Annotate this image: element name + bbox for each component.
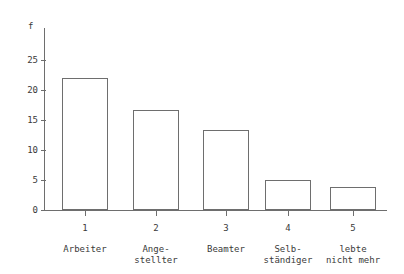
y-tick-label-text: 10: [12, 146, 38, 155]
x-category-number: 4: [258, 224, 318, 233]
y-tick-mark: [41, 90, 46, 91]
y-tick-mark: [41, 120, 46, 121]
x-category-label: Arbeiter: [45, 244, 125, 255]
x-category-number: 2: [126, 224, 186, 233]
y-tick-label: 15: [6, 116, 38, 125]
y-tick-label: 25: [6, 56, 38, 65]
x-category-number: 5: [323, 224, 383, 233]
y-tick-label-text: 25: [12, 56, 38, 65]
y-tick-label-text: 20: [12, 86, 38, 95]
x-category-number: 1: [55, 224, 115, 233]
chart-screenshot: f 0510152025 12345 ArbeiterAnge- stellte…: [0, 0, 404, 274]
y-tick-label: 20: [6, 86, 38, 95]
y-axis-title: f: [28, 22, 33, 31]
x-axis-line: [44, 210, 387, 211]
y-tick-label: 10: [6, 146, 38, 155]
y-tick-label-text: 5: [12, 176, 38, 185]
bar: [203, 130, 249, 210]
x-category-label: lebte nicht mehr: [313, 244, 393, 266]
bar: [62, 78, 108, 210]
y-tick-mark: [41, 180, 46, 181]
x-tick-mark: [353, 211, 354, 216]
x-tick-mark: [226, 211, 227, 216]
y-tick-label: 5: [6, 176, 38, 185]
y-tick-label-text: 0: [12, 206, 38, 215]
x-category-number: 3: [196, 224, 256, 233]
y-tick-mark: [41, 60, 46, 61]
x-category-label: Ange- stellter: [116, 244, 196, 266]
x-tick-mark: [85, 211, 86, 216]
y-tick-mark: [41, 210, 46, 211]
y-tick-mark: [41, 150, 46, 151]
bar: [133, 110, 179, 210]
bar-chart-plot: f 0510152025 12345 ArbeiterAnge- stellte…: [0, 0, 404, 274]
x-tick-mark: [156, 211, 157, 216]
bar: [265, 180, 311, 210]
y-tick-label-text: 15: [12, 116, 38, 125]
bar: [330, 187, 376, 210]
x-tick-mark: [288, 211, 289, 216]
y-tick-label: 0: [6, 206, 38, 215]
